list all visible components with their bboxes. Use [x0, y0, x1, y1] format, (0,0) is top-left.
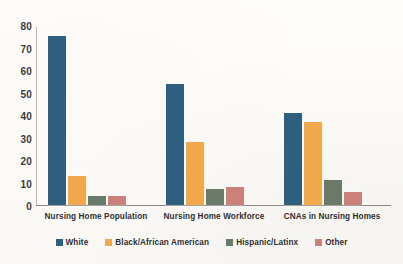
y-axis-tick-50: 50: [0, 90, 32, 100]
chart-legend: WhiteBlack/African AmericanHispanic/Lati…: [0, 238, 403, 247]
bar-group: [37, 25, 155, 205]
bar[interactable]: [88, 196, 106, 205]
bar[interactable]: [304, 122, 322, 205]
bar[interactable]: [324, 180, 342, 205]
bar[interactable]: [226, 187, 244, 205]
y-axis-tick-0: 0: [0, 202, 32, 212]
bar-groups-container: [37, 25, 391, 205]
bar-group: [155, 25, 273, 205]
bar-group: [273, 25, 391, 205]
y-axis-tick-10: 10: [0, 180, 32, 190]
y-axis-tick-labels: 80706050403020100: [0, 25, 32, 205]
category-label: CNAs in Nursing Homes: [273, 210, 391, 226]
category-axis-labels: Nursing Home PopulationNursing Home Work…: [37, 210, 391, 226]
legend-swatch-icon: [315, 239, 322, 246]
y-axis-tick-20: 20: [0, 157, 32, 167]
legend-item[interactable]: Black/African American: [105, 238, 209, 247]
category-label: Nursing Home Workforce: [155, 210, 273, 226]
bar[interactable]: [68, 176, 86, 205]
grouped-bar-chart: 80706050403020100 Nursing Home Populatio…: [0, 0, 403, 264]
category-label: Nursing Home Population: [37, 210, 155, 226]
legend-label: Other: [325, 238, 347, 247]
y-axis-tick-60: 60: [0, 67, 32, 77]
y-axis-tick-40: 40: [0, 112, 32, 122]
bar[interactable]: [108, 196, 126, 205]
legend-label: Black/African American: [115, 238, 209, 247]
y-axis-tick-30: 30: [0, 135, 32, 145]
x-axis-line: [36, 205, 391, 206]
legend-swatch-icon: [105, 239, 112, 246]
legend-item[interactable]: White: [56, 238, 89, 247]
y-axis-tick-70: 70: [0, 45, 32, 55]
bar[interactable]: [344, 192, 362, 206]
bar[interactable]: [48, 36, 66, 205]
legend-label: White: [66, 238, 89, 247]
bar[interactable]: [206, 189, 224, 205]
legend-label: Hispanic/Latinx: [236, 238, 298, 247]
legend-item[interactable]: Hispanic/Latinx: [226, 238, 298, 247]
bar[interactable]: [284, 113, 302, 205]
bar[interactable]: [186, 142, 204, 205]
bar[interactable]: [166, 84, 184, 206]
legend-swatch-icon: [226, 239, 233, 246]
y-axis-tick-80: 80: [0, 22, 32, 32]
legend-item[interactable]: Other: [315, 238, 347, 247]
legend-swatch-icon: [56, 239, 63, 246]
